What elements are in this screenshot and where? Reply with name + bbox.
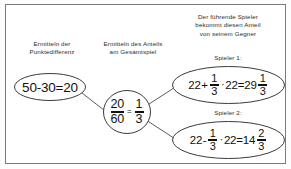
expression-player-1: 22 + 1 3 · 22 = 29 1 3 — [188, 73, 268, 98]
fraction-denominator: 60 — [111, 113, 125, 126]
label-player-2: Spieler 2: — [180, 109, 276, 117]
fraction-numerator: 1 — [210, 128, 216, 139]
fraction-denominator: 3 — [260, 86, 266, 97]
equals-sign: = — [127, 107, 131, 116]
expression-point-difference: 50-30=20 — [22, 80, 78, 95]
base-value: 22 — [190, 134, 202, 146]
difference-expression-text: 50-30=20 — [22, 80, 78, 95]
diagram-canvas: Ermitteln der Punktedifferenz Ermitteln … — [0, 0, 291, 169]
fraction-one-third: 1 3 — [208, 128, 217, 153]
fraction-denominator: 3 — [211, 86, 217, 97]
fraction-one-third: 1 3 — [135, 98, 144, 126]
expression-share-fraction: 20 60 = 1 3 — [110, 98, 145, 126]
plus-operator: + — [201, 79, 208, 91]
fraction-denominator: 3 — [258, 141, 264, 152]
minus-operator: - — [203, 134, 207, 146]
fraction-result: 1 3 — [258, 73, 267, 98]
fraction-numerator: 1 — [260, 73, 266, 84]
node-share-fraction: 20 60 = 1 3 — [103, 90, 151, 134]
fraction-one-third: 1 3 — [210, 73, 219, 98]
multiplication-dot: · — [221, 79, 224, 90]
result-whole-number: 14 — [243, 134, 255, 146]
node-point-difference: 50-30=20 — [14, 73, 86, 101]
fraction-numerator: 2 — [258, 128, 264, 139]
fraction-numerator: 1 — [211, 73, 217, 84]
fraction-numerator: 20 — [111, 98, 125, 111]
fraction-numerator: 1 — [136, 98, 143, 111]
multiplicand-value: 22 — [225, 79, 237, 91]
multiplication-dot: · — [220, 134, 223, 145]
expression-player-2: 22 - 1 3 · 22 = 14 2 3 — [190, 128, 268, 153]
fraction-twenty-sixtieths: 20 60 — [111, 98, 125, 126]
node-player-1-result: 22 + 1 3 · 22 = 29 1 3 — [172, 66, 285, 104]
base-value: 22 — [188, 79, 200, 91]
caption-determine-point-difference: Ermitteln der Punktedifferenz — [10, 40, 94, 57]
fraction-denominator: 3 — [136, 113, 143, 126]
label-player-1: Spieler 1: — [180, 54, 276, 62]
fraction-denominator: 3 — [210, 141, 216, 152]
result-whole-number: 29 — [244, 79, 256, 91]
caption-determine-share-of-total-game: Ermitteln des Anteils am Gesamtspiel — [86, 40, 180, 57]
multiplicand-value: 22 — [224, 134, 236, 146]
fraction-result: 2 3 — [257, 128, 266, 153]
caption-leading-player-receives-share: Der führende Spieler bekommt diesen Ante… — [176, 13, 280, 38]
node-player-2-result: 22 - 1 3 · 22 = 14 2 3 — [172, 121, 285, 159]
